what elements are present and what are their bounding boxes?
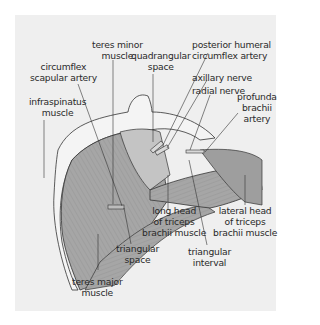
label-infraspinatus-muscle: infraspinatus muscle (29, 96, 86, 118)
label-profunda-brachii-artery: profunda brachii artery (237, 91, 277, 124)
label-circumflex-scapular-artery: circumflex scapular artery (30, 61, 97, 83)
label-long-head-triceps: long head of triceps brachii muscle (142, 205, 206, 238)
label-teres-major-muscle: teres major muscle (72, 276, 123, 298)
label-triangular-space: triangular space (116, 243, 159, 265)
label-posterior-humeral-circumflex-artery: posterior humeral circumflex artery (192, 39, 271, 61)
label-triangular-interval: triangular interval (188, 246, 231, 268)
label-axillary-nerve: axillary nerve (192, 72, 252, 83)
label-quadrangular-space: quadrangular space (131, 50, 191, 72)
label-lateral-head-triceps: lateral head of triceps brachii muscle (213, 205, 277, 238)
